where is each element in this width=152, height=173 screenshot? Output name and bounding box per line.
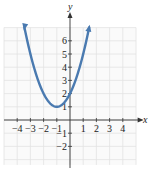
parabola-chart: xy −4−3−2−11234−2−1123456 xyxy=(0,0,152,173)
x-tick-label: −3 xyxy=(25,123,36,134)
y-tick-label: 6 xyxy=(62,35,67,46)
y-tick-label: 4 xyxy=(62,62,67,73)
y-axis-label: y xyxy=(67,1,73,12)
x-tick-label: 4 xyxy=(120,123,125,134)
x-tick-label: −4 xyxy=(12,123,23,134)
x-axis-label: x xyxy=(142,114,148,125)
y-tick-label: 2 xyxy=(62,88,67,99)
y-tick-label: 3 xyxy=(62,75,67,86)
x-tick-label: −2 xyxy=(38,123,49,134)
x-tick-label: 2 xyxy=(94,123,99,134)
y-tick-label: −2 xyxy=(56,141,67,152)
x-tick-label: 3 xyxy=(107,123,112,134)
y-axis-arrow-icon xyxy=(68,12,73,18)
y-tick-label: −1 xyxy=(56,128,67,139)
y-tick-label: 5 xyxy=(62,49,67,60)
x-tick-label: 1 xyxy=(81,123,86,134)
